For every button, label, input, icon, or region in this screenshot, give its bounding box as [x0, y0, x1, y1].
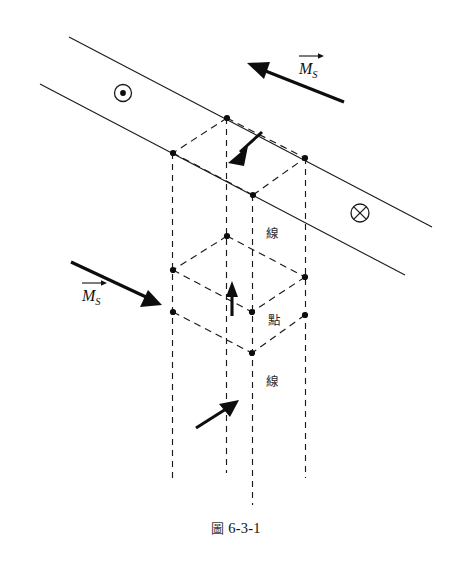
caption-number: 6-3-1 — [228, 520, 260, 536]
node-dot — [170, 309, 176, 315]
moment-arrow-down-shaft — [240, 132, 262, 152]
ms-left-label: MS — [81, 280, 107, 307]
magnetic-domain-diagram: MS MS 線 點 線 — [0, 0, 472, 568]
moment-arrow-down — [228, 132, 262, 166]
label-point-middle: 點 — [268, 313, 281, 328]
node-dot — [224, 233, 230, 239]
node-dot — [224, 115, 230, 121]
figure-caption: 圖6-3-1 — [0, 518, 472, 537]
moment-arrow-up-head — [226, 281, 238, 297]
upper-cell-edge-top-left — [173, 118, 227, 153]
lower-cell-edge-top-right — [227, 236, 305, 277]
ms-top-vector-arrowhead — [318, 53, 324, 59]
ms-top-arrow-head — [247, 62, 270, 79]
lower-cell-edges — [173, 236, 305, 353]
vertical-dashed-lines — [173, 118, 306, 505]
ms-left-vector-arrowhead — [101, 280, 107, 286]
node-dot — [170, 267, 176, 273]
band-lower-line — [40, 84, 405, 275]
node-dot — [302, 274, 308, 280]
node-dot — [302, 312, 308, 318]
moment-arrow-down-head — [228, 146, 248, 166]
ms-top-subscript: S — [312, 69, 318, 80]
ms-left-subscript: S — [95, 296, 101, 307]
lower-cell-edge-lower-left — [173, 312, 252, 353]
circle-dot-icon — [115, 85, 132, 102]
ms-left-label-text: MS — [81, 287, 101, 307]
ms-left-arrow-head — [140, 290, 162, 307]
caption-marker: 圖 — [211, 521, 224, 536]
lower-cell-edge-top-left — [173, 236, 227, 270]
circle-dot-center — [120, 90, 126, 96]
circle-cross-icon — [351, 204, 369, 222]
moment-arrow-up-right-head — [219, 400, 239, 417]
upper-cell-edge-bottom-right — [253, 158, 305, 195]
slab-band — [40, 37, 432, 275]
upper-cell-edge-top-right — [227, 118, 305, 158]
ms-top-label-text: MS — [298, 60, 318, 80]
node-dot — [302, 155, 308, 161]
node-dot — [170, 150, 176, 156]
node-dot — [249, 350, 255, 356]
figure-container: MS MS 線 點 線 圖6-3-1 — [0, 0, 472, 568]
ms-top-label: MS — [298, 53, 324, 80]
lower-cell-edge-mid-left — [173, 270, 252, 312]
ms-top-arrow — [247, 62, 344, 102]
moment-arrow-up-right — [196, 400, 239, 428]
node-dot — [249, 309, 255, 315]
label-line-lower: 線 — [266, 374, 279, 389]
moment-arrow-up-right-shaft — [196, 409, 226, 428]
label-line-upper: 線 — [266, 226, 279, 241]
lower-cell-edge-mid-right — [252, 277, 305, 312]
node-dot — [250, 192, 256, 198]
